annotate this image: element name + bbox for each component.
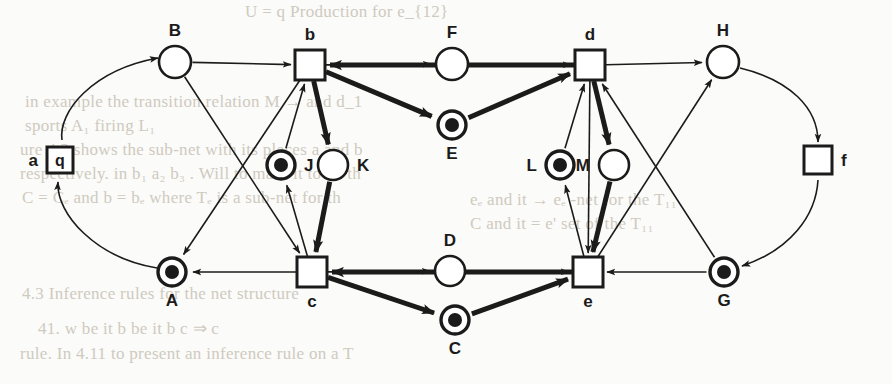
place-D[interactable]: D — [435, 231, 465, 286]
place-label-H: H — [717, 21, 729, 40]
place-circle-B — [159, 46, 191, 78]
arc-d-to-H — [606, 63, 703, 65]
arc-b-to-K — [314, 81, 329, 145]
transition-box-d — [575, 50, 605, 80]
transition-c[interactable]: c — [297, 257, 327, 311]
token-L — [553, 158, 567, 172]
arc-f-to-G — [742, 180, 818, 266]
transition-box-b — [295, 50, 325, 80]
transition-box-f — [804, 146, 832, 174]
arc-A-to-q — [58, 182, 157, 268]
transition-e[interactable]: e — [573, 257, 603, 311]
arc-H-to-f — [740, 68, 818, 142]
arc-c-to-C — [328, 277, 434, 313]
place-M[interactable]: M — [576, 150, 629, 180]
place-label-G: G — [717, 291, 730, 310]
transition-d[interactable]: d — [575, 25, 605, 80]
token-A — [165, 265, 179, 279]
node-layer: BFHEJKLMADGCqabdfce — [29, 21, 847, 358]
arc-b-to-E — [326, 72, 432, 117]
arc-B-to-b — [193, 62, 292, 64]
place-label-C: C — [449, 339, 461, 358]
arc-C-to-e — [472, 279, 568, 314]
place-J[interactable]: J — [267, 151, 313, 179]
place-label-B: B — [169, 21, 181, 40]
transition-label-b: b — [305, 25, 315, 44]
transition-label-c: c — [307, 292, 316, 311]
token-J — [274, 158, 288, 172]
place-B[interactable]: B — [159, 21, 191, 78]
transition-label-q: a — [29, 151, 39, 170]
token-C — [448, 313, 462, 327]
place-F[interactable]: F — [436, 23, 468, 80]
arc-E-to-d — [469, 74, 571, 118]
arc-e-to-L — [565, 185, 584, 256]
place-circle-F — [436, 48, 468, 80]
petri-net-figure: U = q Production for e_{12}in example th… — [0, 0, 892, 384]
place-E[interactable]: E — [438, 111, 466, 163]
token-E — [445, 118, 459, 132]
place-label-K: K — [357, 156, 370, 175]
arc-K-to-c — [316, 182, 330, 252]
place-K[interactable]: K — [318, 150, 370, 180]
place-C[interactable]: C — [441, 306, 469, 358]
transition-f[interactable]: f — [804, 146, 847, 174]
place-H[interactable]: H — [707, 21, 739, 78]
place-label-D: D — [444, 231, 456, 250]
arc-c-to-J — [287, 185, 308, 256]
token-G — [717, 265, 731, 279]
place-label-E: E — [446, 144, 457, 163]
transition-label-d: d — [585, 25, 595, 44]
arc-q-to-B — [62, 58, 158, 140]
transition-q[interactable]: qa — [29, 147, 73, 173]
place-G[interactable]: G — [710, 258, 738, 310]
transition-b[interactable]: b — [295, 25, 325, 80]
place-circle-H — [707, 46, 739, 78]
petri-net-canvas: BFHEJKLMADGCqabdfce — [0, 0, 892, 384]
place-label-M: M — [576, 156, 590, 175]
arc-J-to-b — [286, 84, 305, 148]
arc-L-to-d — [565, 84, 584, 148]
transition-inner-label-q: q — [55, 152, 65, 169]
place-A[interactable]: A — [158, 258, 186, 310]
transition-label-f: f — [841, 151, 847, 170]
place-label-L: L — [527, 156, 537, 175]
place-L[interactable]: L — [527, 151, 574, 179]
place-circle-M — [599, 150, 629, 180]
place-label-F: F — [447, 23, 457, 42]
transition-label-e: e — [583, 292, 592, 311]
transition-box-c — [297, 257, 327, 287]
place-circle-D — [435, 256, 465, 286]
transition-box-e — [573, 257, 603, 287]
place-label-A: A — [166, 291, 178, 310]
place-label-J: J — [304, 156, 313, 175]
place-circle-K — [318, 150, 348, 180]
